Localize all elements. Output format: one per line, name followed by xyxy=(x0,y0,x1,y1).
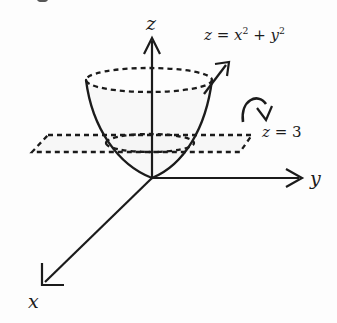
equation-lhs: z xyxy=(204,26,212,44)
x-axis-label: x xyxy=(28,292,39,311)
plane-pointer-arrowhead xyxy=(257,106,272,120)
plane-lhs: z xyxy=(262,123,270,141)
paraboloid-equation-label: z = x2 + y2 xyxy=(204,28,285,43)
equation-plus: + xyxy=(248,26,270,44)
x-axis-line xyxy=(45,178,152,282)
equation-exponent-y: 2 xyxy=(279,25,285,36)
plane-equation-label: z = 3 xyxy=(262,125,302,140)
z-axis-label: z xyxy=(146,14,156,33)
paraboloid-figure: z y x z = x2 + y2 z = 3 xyxy=(0,0,337,323)
plane-pointer-hook xyxy=(243,98,266,122)
diagram-canvas xyxy=(0,0,337,323)
y-axis-label: y xyxy=(310,169,321,188)
plane-equals: = xyxy=(270,123,292,141)
equation-equals: = xyxy=(212,26,234,44)
paraboloid-rim-ellipse xyxy=(86,68,212,92)
plane-z3 xyxy=(32,135,252,152)
plane-value: 3 xyxy=(292,123,302,141)
paraboloid-fill xyxy=(86,80,212,178)
equation-term-y: y xyxy=(271,26,279,44)
surface-pointer-line xyxy=(204,65,226,94)
